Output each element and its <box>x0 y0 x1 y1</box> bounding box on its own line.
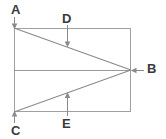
leader-arrow-c <box>12 111 18 123</box>
geometry-figure: A D B C E <box>0 0 166 139</box>
figure-canvas <box>0 0 166 139</box>
vertex-label-c: C <box>11 124 20 137</box>
leader-arrow-e <box>65 92 71 116</box>
vertex-label-e: E <box>62 117 71 130</box>
diagonal-c-to-b <box>14 70 131 112</box>
vertex-label-d: D <box>62 12 71 25</box>
vertex-label-a: A <box>11 3 20 16</box>
leader-arrow-a <box>12 17 18 29</box>
leader-arrow-b <box>131 68 144 74</box>
vertex-label-b: B <box>147 62 156 75</box>
diagonal-a-to-b <box>14 28 131 70</box>
